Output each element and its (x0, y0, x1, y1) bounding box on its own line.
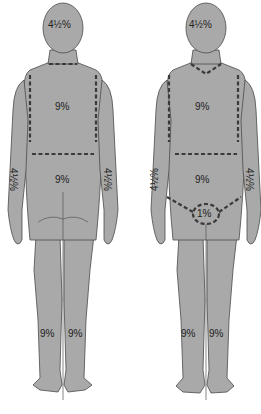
front-lower-trunk-label: 9% (195, 174, 209, 185)
back-head-label: 4½% (48, 19, 71, 30)
front-left-leg-label: 9% (181, 328, 195, 339)
rule-of-nines-figures (0, 0, 261, 414)
front-upper-trunk-label: 9% (195, 101, 209, 112)
back-figure (8, 3, 118, 400)
back-lower-trunk-label: 9% (55, 174, 69, 185)
back-left-leg-label: 9% (40, 328, 54, 339)
front-left-arm-label: 4½% (149, 168, 160, 191)
front-figure (151, 3, 261, 400)
back-left-arm-label: 4½% (8, 168, 19, 191)
back-upper-trunk-label: 9% (55, 101, 69, 112)
front-right-arm-label: 4½% (244, 168, 255, 191)
front-perineum-label: 1% (197, 208, 211, 219)
back-right-leg-label: 9% (68, 328, 82, 339)
front-right-leg-label: 9% (209, 328, 223, 339)
back-right-arm-label: 4½% (102, 168, 113, 191)
front-head-label: 4½% (189, 19, 212, 30)
